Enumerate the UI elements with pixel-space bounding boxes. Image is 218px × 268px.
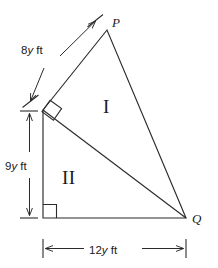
vertex-label-q: Q — [192, 212, 201, 225]
vertex-label-p: P — [112, 16, 120, 29]
divider-segment — [43, 110, 186, 218]
region-label-i: I — [103, 97, 110, 116]
dimension-12y-variable: y — [102, 244, 108, 256]
triangle-outline — [43, 30, 186, 218]
quadrilateral-path — [43, 30, 186, 218]
right-angle-lower-icon — [43, 205, 57, 219]
dimension-12y-value: 12 — [89, 244, 102, 256]
dimension-12y-unit: ft — [111, 244, 117, 256]
dimension-8y-line — [23, 15, 104, 108]
dimension-9y-unit: ft — [20, 160, 26, 172]
dimension-label-8y: 8y ft — [21, 45, 43, 57]
region-label-ii: II — [62, 168, 76, 187]
dimension-label-12y: 12y ft — [89, 245, 117, 257]
dimension-8y-variable: y — [27, 44, 33, 56]
dimension-8y-unit: ft — [36, 44, 42, 56]
dimension-9y-variable: y — [11, 160, 17, 172]
geometry-figure: P Q I II 8y ft 9y ft 12y ft — [0, 0, 218, 268]
dimension-label-9y: 9y ft — [5, 161, 27, 173]
geometry-canvas — [0, 0, 218, 268]
